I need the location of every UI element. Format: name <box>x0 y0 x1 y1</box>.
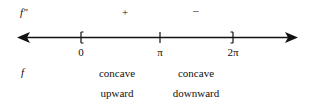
interval-1-concavity-line2: upward <box>101 88 134 99</box>
interval-2-concavity-line2: downward <box>173 88 219 99</box>
function-label: f <box>21 67 24 78</box>
interval-1-concavity-line1: concave <box>99 68 135 79</box>
second-derivative-label: f″ <box>20 7 28 18</box>
tick-label-pi: π <box>157 47 163 58</box>
interval-1-sign: + <box>122 7 128 18</box>
interval-2-sign: – <box>193 5 199 16</box>
interval-2-concavity-line1: concave <box>178 68 214 79</box>
tick-label-0: 0 <box>78 47 84 58</box>
tick-label-2pi: 2π <box>227 47 238 58</box>
number-line <box>0 0 311 106</box>
